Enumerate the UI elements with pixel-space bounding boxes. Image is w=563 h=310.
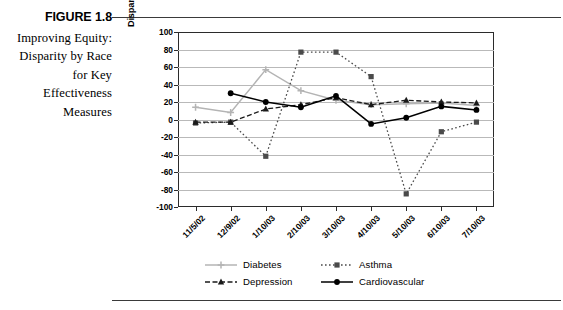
x-tick-label-text: 12/9/02 [215, 213, 242, 240]
chart-legend: DiabetesAsthmaDepressionCardiovascular [204, 256, 504, 290]
legend-item-asthma[interactable]: Asthma [320, 259, 392, 271]
x-tick-label-text: 2/10/03 [285, 213, 312, 240]
y-tick-label: 60 [164, 62, 173, 72]
data-point [368, 121, 374, 127]
x-tick-mark [231, 207, 232, 211]
legend-label: Cardiovascular [359, 276, 424, 287]
data-point [474, 120, 479, 125]
y-tick-mark [174, 207, 178, 208]
legend-item-diabetes[interactable]: Diabetes [204, 259, 320, 271]
data-point [333, 93, 339, 99]
data-point [439, 129, 444, 134]
bottom-divider-rule [112, 300, 561, 301]
y-tick-label: 100 [159, 27, 173, 37]
data-point [263, 99, 269, 105]
data-point [297, 87, 304, 94]
x-tick-mark [406, 207, 407, 211]
legend-swatch-triangle-icon [204, 276, 238, 288]
x-tick-mark [441, 207, 442, 211]
data-point [438, 103, 444, 109]
x-tick-label-text: 7/10/03 [460, 213, 487, 240]
y-axis-title: Disparity (variation from zero) [126, 0, 140, 44]
y-tick-label: 80 [164, 45, 173, 55]
data-point [404, 191, 409, 196]
legend-label: Asthma [359, 259, 392, 270]
x-tick-mark [266, 207, 267, 211]
legend-item-cardiovascular[interactable]: Cardiovascular [320, 276, 424, 288]
data-point [298, 50, 303, 55]
legend-swatch-plus-icon [204, 259, 238, 271]
series-line [196, 70, 477, 113]
x-tick-mark [371, 207, 372, 211]
plot-wrapper: 100806040200-20-40-60-80-100 11/5/0212/9… [178, 32, 494, 207]
data-point [403, 97, 409, 103]
legend-swatch-square-icon [320, 259, 354, 271]
data-point [333, 50, 338, 55]
legend-item-depression[interactable]: Depression [204, 276, 320, 288]
chart-figure: Disparity (variation from zero) 10080604… [132, 24, 532, 294]
figure-title: Improving Equity: Disparity by Race for … [8, 29, 112, 121]
x-tick-label-text: 4/10/03 [355, 213, 382, 240]
data-point [263, 154, 268, 159]
y-tick-label: 20 [164, 97, 173, 107]
series-layer [178, 32, 494, 207]
data-point [192, 104, 199, 111]
legend-row: DepressionCardiovascular [204, 273, 504, 290]
data-point [298, 104, 304, 110]
y-tick-label: -60 [161, 167, 173, 177]
y-tick-label: 40 [164, 80, 173, 90]
data-point [473, 99, 479, 105]
series-line [196, 52, 477, 194]
x-tick-mark [336, 207, 337, 211]
legend-label: Diabetes [243, 259, 282, 270]
y-axis-title-text: Disparity (variation from zero) [126, 0, 136, 44]
x-tick-label-text: 11/5/02 [180, 213, 207, 240]
legend-label: Depression [243, 276, 293, 287]
data-point [403, 115, 409, 121]
data-point [263, 106, 269, 112]
y-tick-label: -20 [161, 132, 173, 142]
top-divider-rule [112, 17, 561, 18]
y-tick-label: -40 [161, 150, 173, 160]
data-point [474, 107, 480, 113]
y-tick-label: -100 [156, 202, 173, 212]
x-tick-label-text: 5/10/03 [390, 213, 417, 240]
figure-number: FIGURE 1.8 [8, 10, 112, 25]
figure-caption-block: FIGURE 1.8 Improving Equity: Disparity b… [8, 10, 112, 121]
data-point [228, 90, 234, 96]
legend-swatch-circle-icon [320, 276, 354, 288]
x-tick-mark [196, 207, 197, 211]
series-depression [192, 94, 479, 125]
x-tick-mark [301, 207, 302, 211]
legend-row: DiabetesAsthma [204, 256, 504, 273]
data-point [369, 74, 374, 79]
y-tick-label: -80 [161, 185, 173, 195]
x-tick-label-text: 6/10/03 [425, 213, 452, 240]
x-tick-label-text: 3/10/03 [320, 213, 347, 240]
x-tick-label-text: 1/10/03 [250, 213, 277, 240]
y-tick-label: 0 [168, 115, 173, 125]
x-tick-mark [476, 207, 477, 211]
series-asthma [193, 50, 479, 197]
